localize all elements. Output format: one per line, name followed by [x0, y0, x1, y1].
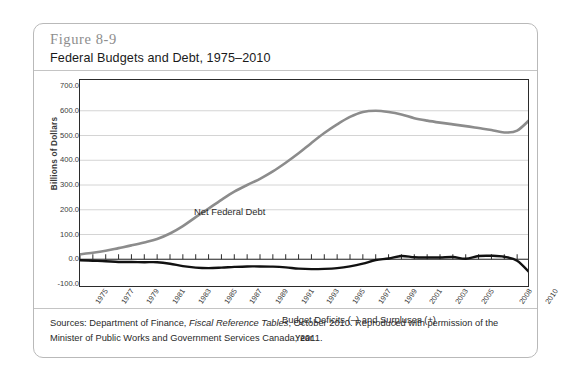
figure-card: Figure 8-9 Federal Budgets and Debt, 197…	[33, 23, 538, 358]
y-tick-label: -100.0	[33, 279, 79, 288]
figure-header: Figure 8-9 Federal Budgets and Debt, 197…	[34, 24, 537, 71]
y-tick-label: 300.0	[33, 180, 79, 189]
figure-title: Federal Budgets and Debt, 1975–2010	[50, 49, 537, 67]
y-tick-label: 0.0	[33, 254, 79, 263]
x-tick-label: 1983	[196, 287, 213, 306]
y-axis-ticks: 700.0600.0500.0400.0300.0200.0100.00.0-1…	[34, 71, 79, 308]
plot-canvas	[79, 79, 529, 287]
x-tick-label: 1985	[222, 287, 239, 306]
x-tick-label: 1997	[376, 287, 393, 306]
x-tick-label: 2003	[453, 287, 470, 306]
x-tick-label: 2001	[428, 287, 445, 306]
x-tick-label: 1987	[248, 287, 265, 306]
x-tick-label: 1995	[350, 287, 367, 306]
x-tick-label: 1993	[325, 287, 342, 306]
y-tick-label: 400.0	[33, 155, 79, 164]
chart-area: Billions of Dollars 700.0600.0500.0400.0…	[34, 71, 539, 308]
y-tick-label: 500.0	[33, 130, 79, 139]
y-tick-label: 700.0	[33, 81, 79, 90]
x-tick-label: 1999	[402, 287, 419, 306]
annotation-net-federal-debt: Net Federal Debt	[194, 206, 265, 217]
x-tick-label: 1979	[145, 287, 162, 306]
series-line-net-federal-debt	[80, 111, 529, 255]
y-tick-label: 200.0	[33, 204, 79, 213]
y-tick-label: 100.0	[33, 229, 79, 238]
x-tick-label: 1981	[170, 287, 187, 306]
series-line-budget-balance	[80, 256, 529, 273]
x-tick-label: 2010	[543, 287, 560, 306]
x-tick-label: 2005	[479, 287, 496, 306]
source-divider	[34, 308, 537, 309]
chart-svg	[80, 80, 529, 287]
source-prefix: Sources: Department of Finance,	[50, 318, 189, 328]
source-italic-title: Fiscal Reference Tables	[189, 318, 288, 328]
y-tick-label: 600.0	[33, 105, 79, 114]
x-tick-label: 1975	[93, 287, 110, 306]
x-tick-label: 1977	[119, 287, 136, 306]
source-note: Sources: Department of Finance, Fiscal R…	[50, 316, 522, 345]
x-tick-label: 1991	[299, 287, 316, 306]
x-tick-label: 2008	[518, 287, 535, 306]
x-tick-label: 1989	[273, 287, 290, 306]
figure-number: Figure 8-9	[50, 31, 537, 48]
